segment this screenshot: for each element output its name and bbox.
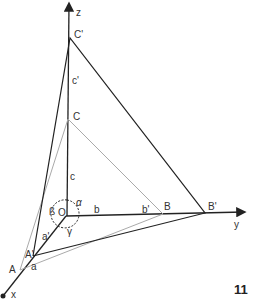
x-axis-label: x bbox=[11, 290, 16, 300]
y-axis bbox=[66, 212, 244, 216]
z-axis-label: z bbox=[76, 8, 81, 18]
figure-number: 11 bbox=[234, 283, 248, 296]
segment-c-prime: c' bbox=[72, 76, 79, 86]
segment-a: a bbox=[31, 262, 37, 272]
point-c: C bbox=[73, 112, 80, 122]
segment-c: c bbox=[70, 172, 75, 182]
axonometric-diagram: z y x C' C B B' A' A O c' c b b' a' a α … bbox=[0, 0, 256, 300]
y-axis-label: y bbox=[234, 220, 239, 230]
segment-b: b bbox=[94, 205, 100, 215]
diagram-lines bbox=[0, 0, 256, 300]
segment-a-prime: a' bbox=[42, 232, 49, 242]
z-axis bbox=[67, 4, 69, 216]
point-a: A bbox=[9, 265, 16, 275]
point-a-prime: A' bbox=[25, 250, 34, 260]
point-b: B bbox=[164, 202, 171, 212]
angle-gamma: γ bbox=[67, 227, 72, 237]
point-c-prime: C' bbox=[74, 30, 83, 40]
angle-alpha: α bbox=[76, 198, 82, 208]
segment-b-prime: b' bbox=[142, 205, 149, 215]
point-b-prime: B' bbox=[208, 202, 217, 212]
origin-label: O bbox=[58, 208, 66, 218]
angle-beta: ß bbox=[49, 207, 55, 217]
